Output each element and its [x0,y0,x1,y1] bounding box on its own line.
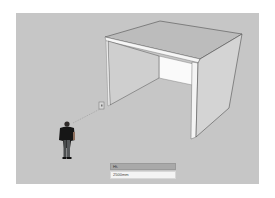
measurements-label: Ht. [110,163,176,170]
cursor-marker-dot [101,105,103,107]
measurements-input[interactable]: 2500mm [110,171,176,179]
inference-guide-line [73,107,104,123]
measurements-box[interactable]: Ht. 2500mm [110,163,176,179]
scale-figure[interactable] [59,121,75,159]
